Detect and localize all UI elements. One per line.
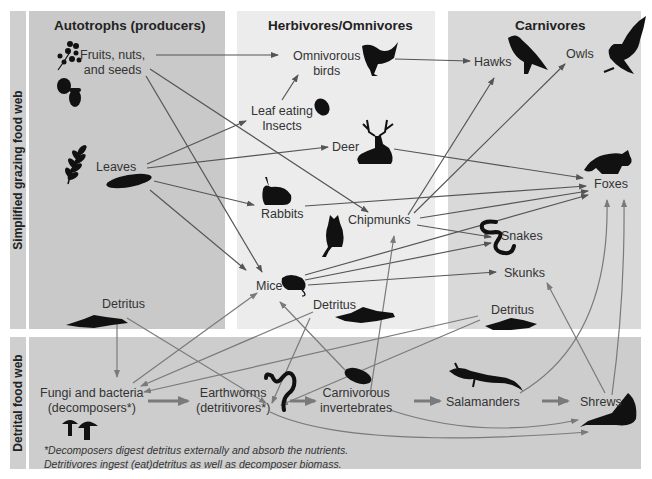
node-skunks: Skunks bbox=[504, 266, 545, 281]
node-shrews: Shrews bbox=[580, 395, 622, 410]
node-earthworms: Earthworms (detritivores*) bbox=[196, 386, 270, 416]
rabbit-icon bbox=[259, 175, 295, 207]
node-fruits-nuts-seeds: Fruits, nuts, and seeds bbox=[80, 48, 145, 78]
node-chipmunks: Chipmunks bbox=[348, 213, 411, 228]
node-hawks: Hawks bbox=[474, 55, 512, 70]
mouse-icon bbox=[280, 270, 310, 298]
deer-icon bbox=[353, 118, 401, 168]
node-snakes: Snakes bbox=[501, 229, 543, 244]
footnote: *Decomposers digest detritus externally … bbox=[44, 443, 348, 471]
salamander-icon bbox=[445, 361, 525, 397]
node-deer: Deer bbox=[332, 140, 359, 155]
node-leaf-eating-insects: Leaf eating Insects bbox=[251, 104, 313, 134]
node-detritus-autotroph: Detritus bbox=[102, 297, 145, 312]
node-foxes: Foxes bbox=[594, 177, 628, 192]
node-detritus-carnivore: Detritus bbox=[491, 303, 534, 318]
node-fungi-bacteria: Fungi and bacteria (decomposers*) bbox=[40, 386, 144, 416]
fox-icon bbox=[582, 150, 634, 178]
bird-icon bbox=[360, 40, 400, 80]
node-carnivorous-invertebrates: Carnivorous invertebrates bbox=[320, 386, 392, 416]
node-detritus-herbivore: Detritus bbox=[313, 298, 356, 313]
detritus-leaf-icon bbox=[64, 313, 130, 329]
chipmunk-icon bbox=[322, 213, 348, 259]
node-omnivorous-birds: Omnivorous birds bbox=[293, 49, 360, 79]
node-owls: Owls bbox=[566, 47, 594, 62]
beetle-icon bbox=[311, 96, 333, 118]
beetle-carnivorous-icon bbox=[330, 364, 378, 388]
fern-leaf-icon bbox=[60, 144, 90, 186]
node-salamanders: Salamanders bbox=[446, 395, 520, 410]
owl-icon bbox=[592, 14, 648, 78]
node-mice: Mice bbox=[256, 279, 282, 294]
detritus-leaf-icon-3 bbox=[483, 316, 539, 332]
node-leaves: Leaves bbox=[96, 160, 136, 175]
mushroom-icon bbox=[60, 416, 100, 440]
node-rabbits: Rabbits bbox=[261, 207, 303, 222]
